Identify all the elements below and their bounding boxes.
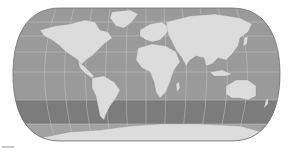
world-map: [0, 0, 292, 151]
corner-mark: [2, 146, 14, 148]
